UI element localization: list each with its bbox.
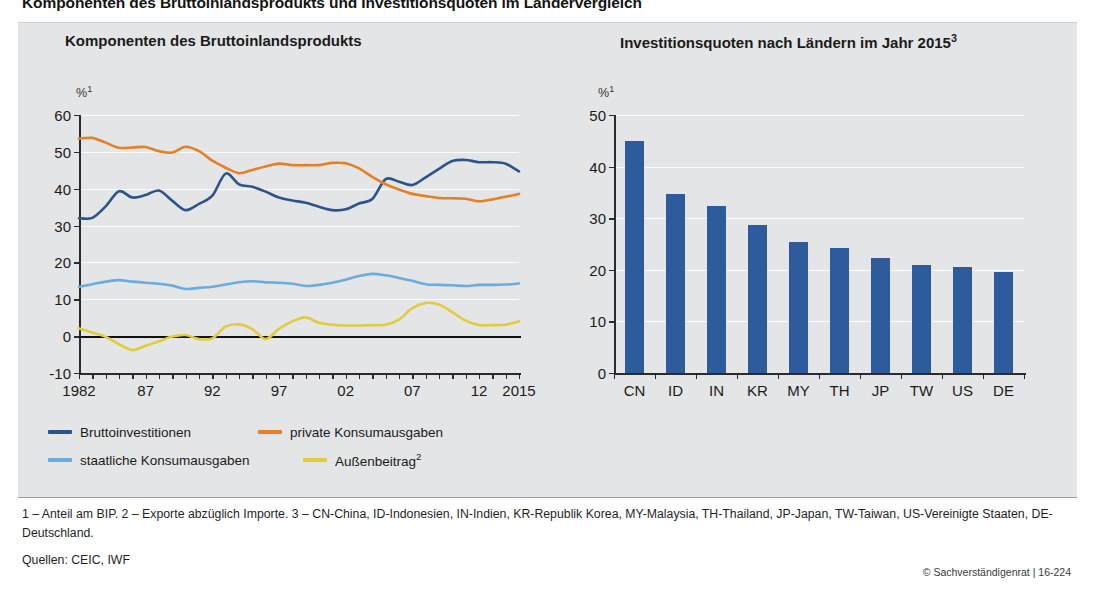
right-y-tick-label: 0 bbox=[558, 365, 606, 382]
right-x-tickmark bbox=[778, 374, 779, 379]
legend-label-aussenbeitrag-text: Außenbeitrag bbox=[335, 454, 416, 469]
right-y-axis bbox=[614, 115, 616, 374]
right-y-tick-label: 10 bbox=[558, 313, 606, 330]
right-y-tick-label: 20 bbox=[558, 261, 606, 278]
sources-line: Quellen: CEIC, IWF bbox=[22, 553, 130, 567]
right-x-tickmark bbox=[737, 374, 738, 379]
right-x-tickmark bbox=[860, 374, 861, 379]
legend-swatch-navy bbox=[48, 430, 72, 433]
legend-item-aussenbeitrag: Außenbeitrag2 bbox=[303, 451, 421, 469]
right-x-tickmark bbox=[614, 374, 615, 379]
legend-row-1: Bruttoinvestitionen private Konsumausgab… bbox=[48, 418, 518, 446]
bar-de bbox=[994, 272, 1013, 373]
right-bar-chart: 01020304050CNIDINKRMYTHJPTWUSDE bbox=[0, 0, 1095, 420]
bar-kr bbox=[748, 225, 767, 373]
copyright-line: © Sachverständigenrat | 16-224 bbox=[923, 566, 1071, 578]
legend-label-aussenbeitrag: Außenbeitrag2 bbox=[335, 451, 421, 469]
right-y-tickmark bbox=[609, 115, 614, 116]
legend-label-aussenbeitrag-superscript: 2 bbox=[416, 451, 421, 462]
right-y-tick-label: 40 bbox=[558, 158, 606, 175]
legend-swatch-yellow bbox=[303, 458, 327, 461]
right-x-tickmark bbox=[819, 374, 820, 379]
bar-th bbox=[830, 248, 849, 373]
bar-cn bbox=[625, 141, 644, 373]
right-x-tick-label-id: ID bbox=[668, 382, 683, 399]
bar-id bbox=[666, 194, 685, 373]
legend-item-private-konsumausgaben: private Konsumausgaben bbox=[258, 425, 443, 440]
footer-divider bbox=[18, 497, 1077, 498]
legend-item-bruttoinvestitionen: Bruttoinvestitionen bbox=[48, 425, 258, 440]
right-x-tick-label-kr: KR bbox=[747, 382, 768, 399]
right-y-tickmark bbox=[609, 270, 614, 271]
bar-tw bbox=[912, 265, 931, 373]
bar-us bbox=[953, 267, 972, 373]
legend-label-staatliche-konsumausgaben: staatliche Konsumausgaben bbox=[80, 453, 250, 468]
right-x-tickmark bbox=[942, 374, 943, 379]
right-x-tick-label-th: TH bbox=[830, 382, 850, 399]
right-x-tickmark bbox=[983, 374, 984, 379]
bar-my bbox=[789, 242, 808, 373]
right-gridline bbox=[614, 115, 1024, 116]
right-x-tick-label-tw: TW bbox=[910, 382, 933, 399]
right-gridline bbox=[614, 167, 1024, 168]
right-x-tick-label-us: US bbox=[952, 382, 973, 399]
right-y-tick-label: 30 bbox=[558, 210, 606, 227]
right-x-tick-label-my: MY bbox=[787, 382, 810, 399]
legend-label-private-konsumausgaben: private Konsumausgaben bbox=[290, 425, 443, 440]
legend-swatch-light-blue bbox=[48, 458, 72, 461]
legend: Bruttoinvestitionen private Konsumausgab… bbox=[48, 418, 518, 474]
legend-swatch-orange bbox=[258, 430, 282, 433]
right-x-tickmark bbox=[696, 374, 697, 379]
right-y-tick-label: 50 bbox=[558, 107, 606, 124]
right-x-tickmark bbox=[1024, 374, 1025, 379]
footnotes: 1 – Anteil am BIP. 2 – Exporte abzüglich… bbox=[22, 505, 1072, 543]
legend-row-2: staatliche Konsumausgaben Außenbeitrag2 bbox=[48, 446, 518, 474]
right-x-tick-label-de: DE bbox=[993, 382, 1014, 399]
right-x-tick-label-in: IN bbox=[709, 382, 724, 399]
right-x-tickmark bbox=[901, 374, 902, 379]
right-x-tick-label-jp: JP bbox=[872, 382, 890, 399]
legend-item-staatliche-konsumausgaben: staatliche Konsumausgaben bbox=[48, 453, 303, 468]
bar-in bbox=[707, 206, 726, 373]
right-y-tickmark bbox=[609, 218, 614, 219]
right-y-tickmark bbox=[609, 167, 614, 168]
right-x-tick-label-cn: CN bbox=[624, 382, 646, 399]
right-y-tickmark bbox=[609, 321, 614, 322]
right-x-tickmark bbox=[655, 374, 656, 379]
legend-label-bruttoinvestitionen: Bruttoinvestitionen bbox=[80, 425, 191, 440]
bar-jp bbox=[871, 258, 890, 373]
